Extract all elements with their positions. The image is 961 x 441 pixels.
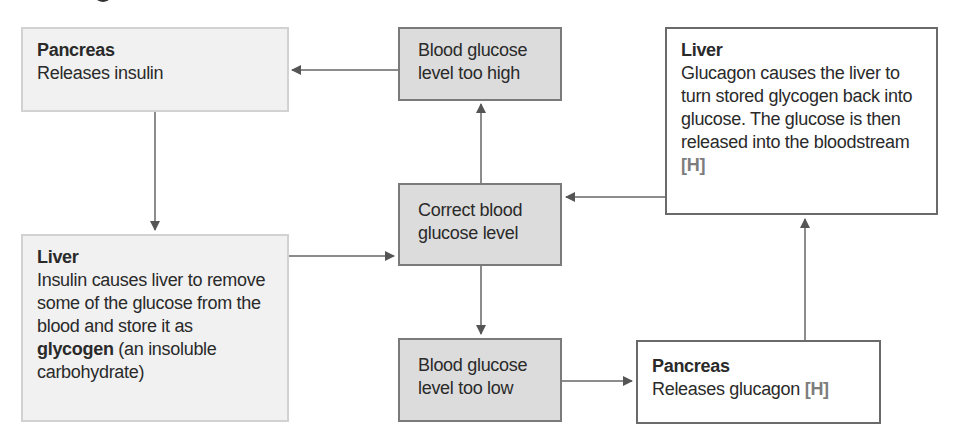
box-text: Correct blood glucose level	[418, 200, 522, 243]
box-text: Blood glucose level too low	[418, 355, 527, 398]
glucose-too-low-box: Blood glucose level too low	[398, 338, 562, 422]
box-text: Releases glucagon	[652, 379, 800, 399]
pancreas-insulin-box: Pancreas Releases insulin	[21, 27, 289, 112]
box-text: Blood glucose level too high	[418, 40, 527, 83]
liver-insulin-box: Liver Insulin causes liver to remove som…	[21, 234, 289, 422]
box-title: Liver	[681, 39, 922, 62]
higher-tier-tag: [H]	[681, 155, 705, 175]
glucose-too-high-box: Blood glucose level too high	[398, 27, 562, 101]
box-text: Glucagon causes the liver to turn stored…	[681, 63, 912, 152]
liver-glucagon-box: Liver Glucagon causes the liver to turn …	[665, 27, 938, 215]
box-title: Liver	[37, 246, 273, 269]
glycogen-keyword: glycogen	[37, 339, 114, 359]
box-title: Pancreas	[652, 355, 865, 378]
box-title: Pancreas	[37, 39, 273, 62]
correct-glucose-box: Correct blood glucose level	[398, 183, 562, 266]
higher-tier-tag: [H]	[805, 379, 829, 399]
box-text: Releases insulin	[37, 63, 163, 83]
box-text: Insulin causes liver to remove some of t…	[37, 270, 265, 336]
pancreas-glucagon-box: Pancreas Releases glucagon [H]	[636, 340, 881, 424]
